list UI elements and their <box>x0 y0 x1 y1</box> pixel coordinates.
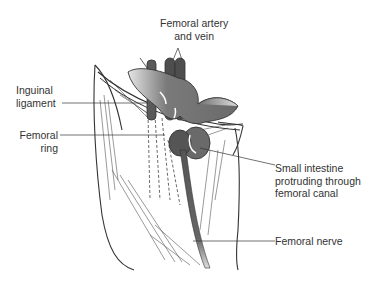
label-inguinal-ligament: Inguinal ligament <box>16 84 56 109</box>
label-line: Femoral artery <box>160 17 228 30</box>
label-femoral-ring: Femoral ring <box>18 129 58 154</box>
label-line: protruding through <box>275 175 361 188</box>
label-line: femoral canal <box>275 187 361 200</box>
label-femoral-artery-vein: Femoral artery and vein <box>160 17 228 42</box>
femoral-canal-dashed <box>148 115 180 205</box>
femoral-nerve-shape <box>180 150 210 268</box>
label-line: Inguinal <box>16 84 56 97</box>
label-line: ligament <box>16 97 56 110</box>
label-line: Small intestine <box>275 162 361 175</box>
label-line: and vein <box>160 30 228 43</box>
label-line: Femoral <box>18 129 58 142</box>
label-small-intestine: Small intestine protruding through femor… <box>275 162 361 200</box>
label-femoral-nerve: Femoral nerve <box>275 235 343 248</box>
label-line: ring <box>18 142 58 155</box>
